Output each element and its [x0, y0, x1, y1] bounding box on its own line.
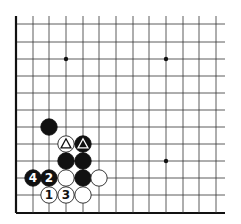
move-number: 4 — [29, 171, 37, 185]
star-point — [64, 57, 68, 61]
go-board: 4213 — [0, 0, 241, 224]
black-stone — [75, 170, 91, 186]
black-stone — [41, 119, 57, 135]
black-stone-2: 2 — [41, 170, 57, 186]
star-point — [164, 57, 168, 61]
move-number: 2 — [45, 171, 53, 185]
white-stone — [58, 170, 74, 186]
black-stone-4: 4 — [25, 170, 41, 186]
white-stone-3: 3 — [58, 187, 74, 203]
move-number: 1 — [45, 188, 53, 202]
black-stone — [75, 153, 91, 169]
white-stone-marked — [58, 136, 74, 152]
white-stone — [91, 170, 107, 186]
white-stone — [75, 187, 91, 203]
move-number: 3 — [62, 188, 70, 202]
star-point — [164, 159, 168, 163]
white-stone-1: 1 — [41, 187, 57, 203]
black-stone — [58, 153, 74, 169]
black-stone-marked — [75, 136, 91, 152]
